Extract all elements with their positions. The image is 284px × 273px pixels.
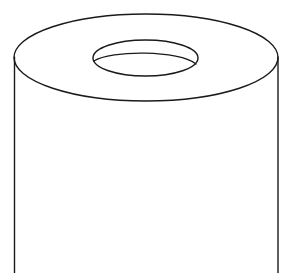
tube-drawing (0, 0, 284, 273)
hollow-cylinder-figure (0, 0, 284, 273)
outer-top-rim (14, 14, 278, 101)
inner-hole-back-wall (94, 53, 196, 64)
